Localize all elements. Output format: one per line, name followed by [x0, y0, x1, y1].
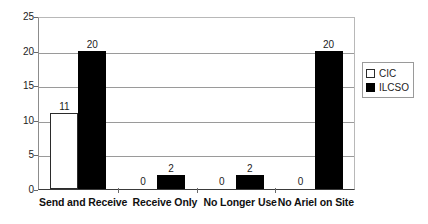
bar-slot-ilcso: 2	[157, 18, 185, 189]
bar-ilcso-no-ariel-on-site[interactable]: 20	[315, 51, 343, 189]
y-tick-mark	[34, 190, 38, 191]
x-axis-label-send-and-receive: Send and Receive	[39, 196, 127, 208]
bar-chart: 25 20 15 10 5 0 11	[0, 0, 428, 224]
bar-group-no-longer-use: 0 2	[197, 18, 276, 189]
legend: CIC ILCSO	[362, 62, 414, 98]
x-axis-label-no-ariel-on-site: No Ariel on Site	[278, 196, 354, 208]
legend-item-cic[interactable]: CIC	[366, 66, 409, 80]
bar-value-label: 2	[149, 163, 193, 174]
bar-slot-ilcso: 2	[236, 18, 264, 189]
legend-label-ilcso: ILCSO	[379, 82, 409, 93]
bar-ilcso-no-longer-use[interactable]: 2	[236, 175, 264, 189]
bar-ilcso-receive-only[interactable]: 2	[157, 175, 185, 189]
bar-group-no-ariel-on-site: 0 20	[275, 18, 354, 189]
bar-ilcso-send-and-receive[interactable]: 20	[78, 51, 106, 189]
legend-item-ilcso[interactable]: ILCSO	[366, 80, 409, 94]
y-tick-label: 10	[4, 116, 34, 126]
bar-group-receive-only: 0 2	[118, 18, 197, 189]
legend-swatch-black-square-icon	[366, 83, 375, 92]
y-tick-label: 20	[4, 47, 34, 57]
legend-swatch-white-square-icon	[366, 69, 375, 78]
y-tick-label: 15	[4, 81, 34, 91]
bar-group-send-and-receive: 11 20	[39, 18, 118, 189]
bar-slot-ilcso: 20	[78, 18, 106, 189]
y-tick-label: 0	[4, 185, 34, 195]
bar-value-label: 20	[70, 39, 114, 50]
y-tick-label: 5	[4, 150, 34, 160]
bar-value-label: 2	[228, 163, 272, 174]
x-axis-label-no-longer-use: No Longer Use	[203, 196, 278, 208]
bar-cic-send-and-receive[interactable]: 11	[50, 113, 78, 189]
legend-label-cic: CIC	[379, 68, 396, 79]
x-axis-labels: Send and Receive Receive Only No Longer …	[39, 196, 354, 208]
bar-slot-ilcso: 20	[315, 18, 343, 189]
y-tick-label: 25	[4, 12, 34, 22]
bar-value-label: 20	[307, 39, 351, 50]
bar-groups: 11 20 0 2	[39, 18, 354, 189]
x-axis-label-receive-only: Receive Only	[127, 196, 202, 208]
